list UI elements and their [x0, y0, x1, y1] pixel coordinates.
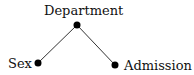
node-sex [35, 60, 42, 67]
edge-department-admission [77, 25, 115, 65]
label-sex: Sex [8, 57, 32, 70]
node-admission [112, 62, 119, 69]
edge-department-sex [38, 25, 77, 63]
label-admission: Admission [124, 59, 192, 72]
node-department [74, 22, 81, 29]
label-department: Department [44, 4, 123, 17]
